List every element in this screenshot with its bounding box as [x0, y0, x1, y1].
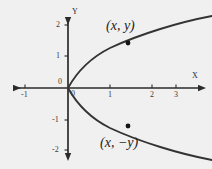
y-tick-label-neg2: -2 — [52, 146, 59, 154]
x-tick-label-1: 1 — [108, 91, 112, 99]
origin-label: 0 — [58, 78, 62, 86]
y-axis-letter: Y — [72, 8, 78, 16]
y-axis — [65, 18, 69, 154]
x-tick-label-2: 2 — [150, 91, 154, 99]
data-point-upper — [126, 41, 131, 46]
lower-point-label: (x, −y) — [100, 136, 138, 150]
upper-point-label: (x, y) — [106, 19, 135, 33]
y-tick-label-2: 2 — [56, 21, 60, 29]
x-axis — [14, 85, 199, 89]
x-tick-label-neg1: -1 — [21, 91, 28, 99]
y-tick-label-1: 1 — [56, 52, 60, 60]
data-point-lower — [126, 124, 131, 129]
parabola-lower-branch — [68, 88, 212, 160]
origin-label-secondary: 0 — [71, 90, 75, 98]
parabola-figure: Y X 0 0 -1 1 2 3 2 1 -1 -2 (x, y) (x, −y… — [0, 0, 212, 169]
x-tick-label-3: 3 — [174, 91, 178, 99]
y-tick-label-neg1: -1 — [52, 116, 59, 124]
parabola-upper-branch — [68, 16, 212, 88]
x-axis-letter: X — [192, 72, 198, 80]
